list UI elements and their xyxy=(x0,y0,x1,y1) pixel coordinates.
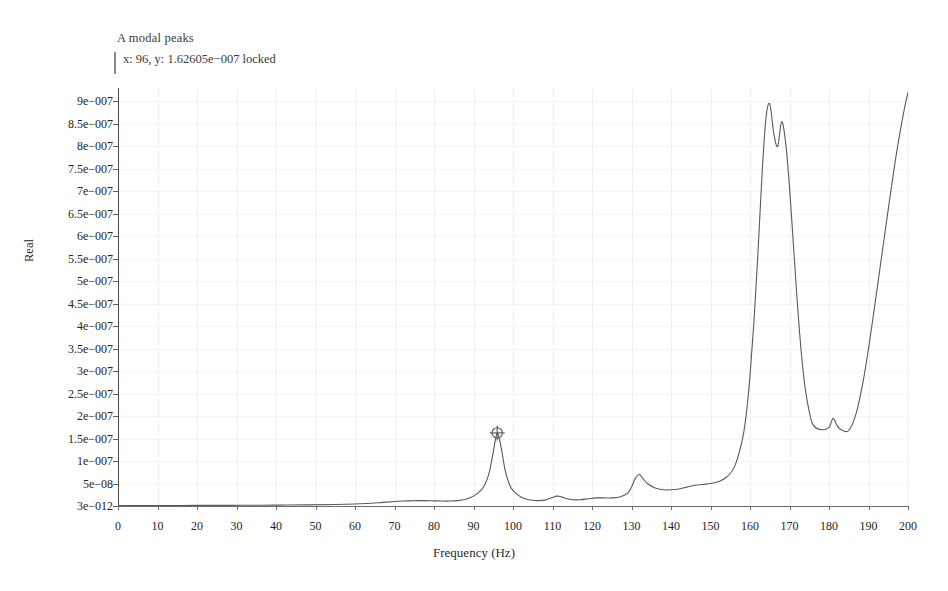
y-tick-label: 5e−08 xyxy=(83,476,113,491)
y-tick-label: 8.5e−007 xyxy=(68,116,113,131)
y-tick-label: 3e−012 xyxy=(77,498,113,513)
x-tick-label: 30 xyxy=(231,519,243,534)
x-tick-label: 170 xyxy=(781,519,799,534)
y-tick-label: 2.5e−007 xyxy=(68,386,113,401)
y-tick-label: 8e−007 xyxy=(77,139,113,154)
y-tick-label: 1.5e−007 xyxy=(68,431,113,446)
x-tick-label: 80 xyxy=(428,519,440,534)
x-tick-label: 130 xyxy=(623,519,641,534)
y-tick-label: 7.5e−007 xyxy=(68,161,113,176)
cursor-readout-annotation: x: 96, y: 1.62605e−007 locked xyxy=(114,52,276,74)
x-tick-label: 140 xyxy=(662,519,680,534)
x-tick-label: 160 xyxy=(741,519,759,534)
y-tick-label: 9e−007 xyxy=(77,94,113,109)
x-tick-label: 150 xyxy=(702,519,720,534)
x-tick-label: 60 xyxy=(349,519,361,534)
y-tick-label: 4.5e−007 xyxy=(68,296,113,311)
vertical-gridline xyxy=(908,88,909,506)
y-tick-label: 3e−007 xyxy=(77,364,113,379)
y-axis-ticks: 3e−0125e−081e−0071.5e−0072e−0072.5e−0073… xyxy=(0,0,113,591)
x-tick-label: 110 xyxy=(544,519,562,534)
x-tick-label: 100 xyxy=(504,519,522,534)
frf-curve xyxy=(118,92,908,505)
y-axis-label: Real xyxy=(22,239,37,262)
x-axis-line xyxy=(118,506,908,507)
y-tick-label: 1e−007 xyxy=(77,454,113,469)
y-tick-label: 5e−007 xyxy=(77,274,113,289)
x-tick-label: 10 xyxy=(152,519,164,534)
y-tick-label: 5.5e−007 xyxy=(68,251,113,266)
x-tick-label: 120 xyxy=(583,519,601,534)
x-tick-label: 180 xyxy=(820,519,838,534)
x-tick-label: 70 xyxy=(389,519,401,534)
x-axis-ticks: 0102030405060708090100110120130140150160… xyxy=(0,519,948,539)
x-tick-label: 50 xyxy=(310,519,322,534)
y-tick-label: 2e−007 xyxy=(77,409,113,424)
y-tick-label: 4e−007 xyxy=(77,319,113,334)
series-plot-area xyxy=(118,88,908,506)
x-tick-label: 0 xyxy=(115,519,121,534)
x-tick-mark xyxy=(908,506,909,510)
chart-title: A modal peaks xyxy=(117,31,194,46)
chart-canvas: A modal peaks x: 96, y: 1.62605e−007 loc… xyxy=(0,0,948,591)
x-tick-label: 200 xyxy=(899,519,917,534)
x-tick-label: 190 xyxy=(860,519,878,534)
y-tick-label: 7e−007 xyxy=(77,184,113,199)
y-tick-label: 3.5e−007 xyxy=(68,341,113,356)
x-tick-label: 40 xyxy=(270,519,282,534)
x-tick-label: 20 xyxy=(191,519,203,534)
x-axis-label: Frequency (Hz) xyxy=(0,545,948,561)
y-tick-label: 6.5e−007 xyxy=(68,206,113,221)
x-tick-label: 90 xyxy=(468,519,480,534)
y-tick-label: 6e−007 xyxy=(77,229,113,244)
